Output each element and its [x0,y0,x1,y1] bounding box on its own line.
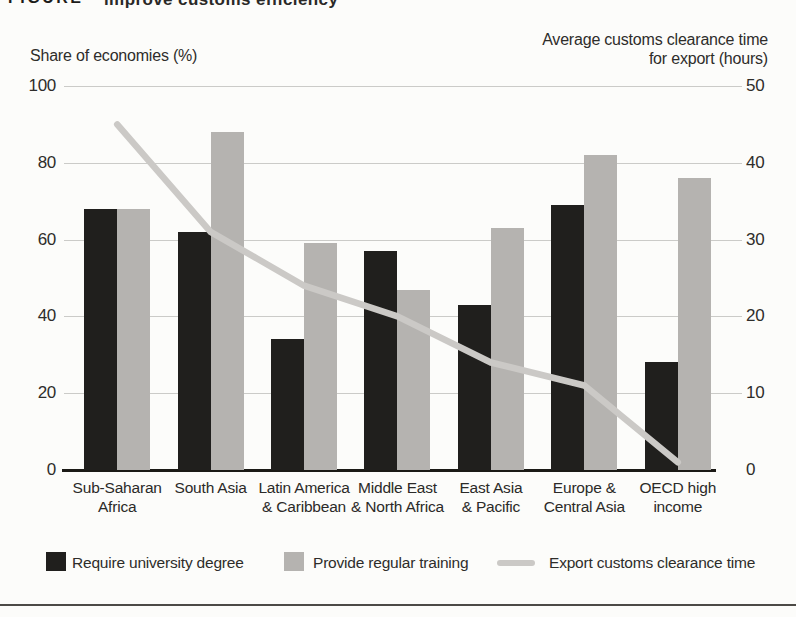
x-axis-label-6: OECD high income [620,478,736,516]
legend-swatch-training [284,552,304,571]
bar-training-3 [397,290,430,470]
bar-degree-0 [84,209,117,470]
figure-page: FIGURE improve customs efficiency Share … [0,0,796,617]
right-axis-title: Average customs clearance time for expor… [528,30,768,68]
bar-degree-2 [271,339,304,470]
figure-title-prefix: FIGURE [8,0,83,7]
legend-label-0: Require university degree [72,553,244,572]
legend-label-2: Export customs clearance time [549,553,755,572]
legend-swatch-degree [46,552,66,571]
y-axis-tick-right-10: 10 [746,383,792,403]
bar-training-2 [304,243,337,470]
y-axis-tick-left-100: 100 [0,76,56,96]
gridline-80 [64,163,742,164]
bar-degree-5 [551,205,584,470]
y-axis-tick-left-0: 0 [0,460,56,480]
figure-title-text: improve customs efficiency [104,0,338,10]
gridline-100 [64,86,742,87]
y-axis-tick-right-20: 20 [746,306,792,326]
legend-swatch-line [497,560,535,566]
bottom-rule [0,604,796,606]
y-axis-tick-right-50: 50 [746,76,792,96]
figure-title-clipped: FIGURE improve customs efficiency [0,0,796,11]
y-axis-tick-right-0: 0 [746,460,792,480]
gridline-60 [64,240,742,241]
bar-degree-4 [458,305,491,470]
bar-training-4 [491,228,524,470]
bar-degree-6 [645,362,678,470]
legend-label-1: Provide regular training [313,553,468,572]
y-axis-tick-left-60: 60 [0,230,56,250]
y-axis-tick-left-20: 20 [0,383,56,403]
bar-training-0 [117,209,150,470]
y-axis-tick-left-80: 80 [0,153,56,173]
y-axis-tick-right-40: 40 [746,153,792,173]
y-axis-tick-left-40: 40 [0,306,56,326]
bar-training-1 [211,132,244,470]
y-axis-tick-right-30: 30 [746,230,792,250]
bar-degree-3 [364,251,397,470]
bar-degree-1 [178,232,211,470]
bar-training-5 [584,155,617,470]
bar-training-6 [678,178,711,470]
left-axis-title: Share of economies (%) [30,46,197,65]
